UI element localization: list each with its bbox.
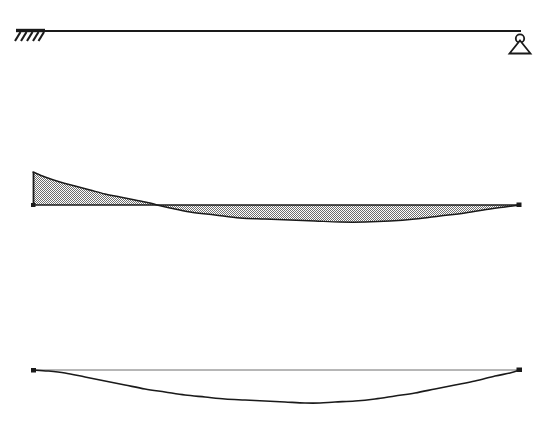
- moment-panel: [31, 172, 522, 222]
- deflection-curve: [33, 370, 520, 403]
- moment-left-node-marker: [31, 203, 36, 207]
- fixed-support-hatching: [15, 32, 44, 41]
- pin-support: [510, 34, 531, 53]
- fixed-support: [15, 31, 45, 42]
- deflection-right-node-marker: [517, 368, 523, 373]
- structural-diagram: [0, 0, 543, 426]
- structure-panel: [15, 31, 531, 54]
- pin-support-triangle-icon: [510, 41, 531, 54]
- figure-canvas: [0, 0, 543, 426]
- deflection-panel: [31, 368, 522, 404]
- deflection-left-node-marker: [31, 368, 36, 373]
- moment-right-node-marker: [517, 203, 522, 208]
